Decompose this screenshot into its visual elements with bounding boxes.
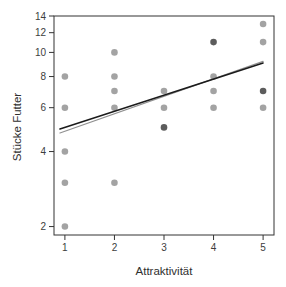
y-tick-label: 8 <box>40 71 46 82</box>
y-tick-label: 4 <box>40 146 46 157</box>
data-point <box>260 104 267 111</box>
data-point <box>62 223 69 230</box>
y-tick-label: 2 <box>40 221 46 232</box>
x-tick-label: 4 <box>211 242 217 253</box>
scatter-plot-figure: 123452468101214 Attraktivität Stücke Fut… <box>0 0 286 287</box>
data-point-overlap <box>260 88 267 95</box>
fit-line-black <box>60 63 263 129</box>
x-tick-label: 5 <box>260 242 266 253</box>
data-point <box>111 88 118 95</box>
data-point <box>161 88 168 95</box>
data-point <box>111 179 118 186</box>
y-tick-label: 10 <box>35 47 47 58</box>
y-tick-label: 14 <box>35 11 47 22</box>
data-point <box>161 104 168 111</box>
data-point <box>62 73 69 80</box>
data-point <box>260 39 267 46</box>
data-point <box>260 21 267 28</box>
plot-canvas: 123452468101214 <box>0 0 286 287</box>
data-point <box>210 88 217 95</box>
y-axis-title: Stücke Futter <box>11 93 23 161</box>
x-tick-label: 3 <box>161 242 167 253</box>
data-point-overlap <box>161 124 168 131</box>
data-point-overlap <box>210 39 217 46</box>
data-point <box>210 104 217 111</box>
data-point <box>62 179 69 186</box>
x-axis-title: Attraktivität <box>136 265 193 277</box>
data-point <box>62 148 69 155</box>
data-point <box>111 73 118 80</box>
data-point <box>62 104 69 111</box>
x-tick-label: 1 <box>62 242 68 253</box>
y-tick-label: 6 <box>40 102 46 113</box>
y-tick-label: 12 <box>35 27 47 38</box>
data-point <box>111 49 118 56</box>
x-tick-label: 2 <box>112 242 118 253</box>
